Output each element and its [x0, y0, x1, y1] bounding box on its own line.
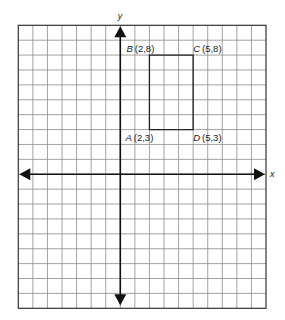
x-axis-label: x [269, 169, 275, 179]
vertex-coords: (5,8) [202, 43, 222, 54]
vertex-label-a: A(2,3) [124, 132, 153, 143]
y-axis-label: y [117, 11, 123, 21]
vertex-letter: A [124, 132, 131, 143]
y-axis-down-arrow-icon [114, 294, 126, 305]
vertex-letter: C [193, 43, 200, 54]
y-axis-up-arrow-icon [114, 26, 126, 37]
vertex-letter: D [193, 132, 200, 143]
vertex-labels: A(2,3) B(2,8) C(5,8) D(5,3) [124, 43, 221, 142]
vertex-label-c: C(5,8) [193, 43, 221, 54]
x-axis-left-arrow-icon [19, 168, 30, 180]
vertex-coords: (5,3) [202, 132, 222, 143]
coordinate-plane: x y A(2,3) B(2,8) C(5,8) D(5,3) [0, 0, 285, 320]
vertex-coords: (2,3) [134, 132, 154, 143]
coordinate-plane-figure: x y A(2,3) B(2,8) C(5,8) D(5,3) [0, 0, 285, 320]
vertex-label-d: D(5,3) [193, 132, 221, 143]
rectangle-abcd [149, 55, 193, 129]
vertex-label-b: B(2,8) [126, 43, 154, 54]
grid-lines [18, 25, 266, 308]
vertex-coords: (2,8) [135, 43, 155, 54]
x-axis-right-arrow-icon [254, 168, 265, 180]
grid-border [18, 25, 266, 308]
vertex-letter: B [126, 43, 133, 54]
